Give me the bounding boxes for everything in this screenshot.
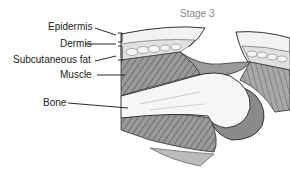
stage-title: Stage 3 xyxy=(180,8,214,19)
label-bone: Bone xyxy=(43,98,66,108)
label-subcutaneous-fat: Subcutaneous fat xyxy=(13,55,91,65)
muscle-lower-left xyxy=(121,114,216,152)
pressure-ulcer-diagram xyxy=(0,0,290,169)
label-epidermis: Epidermis xyxy=(48,22,92,32)
label-dermis: Dermis xyxy=(60,39,92,49)
label-muscle: Muscle xyxy=(60,70,92,80)
